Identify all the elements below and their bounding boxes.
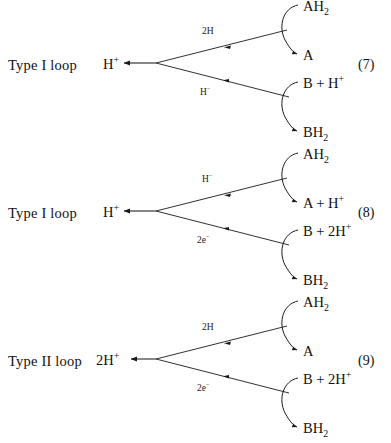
lower-branch-label-main-9: 2e: [197, 383, 206, 393]
lower-branch-label-sup-7: −: [207, 85, 211, 92]
left-species-8: H+: [103, 205, 119, 220]
upper-branch-label-sup-8: −: [209, 172, 213, 179]
proton-loop-figure: AH Type I loop: [0, 0, 391, 443]
lower-branch-label-sup-8: −: [206, 233, 210, 240]
left-species-main-8: H: [103, 204, 113, 220]
right-species-7-2: A: [303, 48, 313, 63]
left-species-main-9: 2H: [96, 352, 114, 368]
upper-branch-label-main-8: H: [202, 174, 209, 184]
lower-branch-label-8: 2e−: [197, 236, 210, 246]
lower-branch-label-9: 2e−: [197, 384, 210, 394]
upper-branch-label-main-7: 2H: [202, 26, 214, 36]
right-species-8-2: A + H+: [303, 196, 344, 211]
left-species-sup-8: +: [113, 202, 119, 213]
lower-branch-label-7: H−: [200, 88, 211, 98]
right-species-9-3: B + 2H+: [303, 372, 351, 387]
right-species-7-4: BH2: [303, 125, 328, 140]
left-species-main-7: H: [103, 56, 113, 72]
left-species-7: H+: [103, 57, 119, 72]
loop-type-label-7: Type I loop: [8, 58, 77, 73]
upper-branch-label-9: 2H: [202, 323, 214, 333]
left-species-sup-9: +: [114, 350, 120, 361]
left-species-9: 2H+: [96, 353, 119, 368]
lower-branch-label-main-8: 2e: [197, 235, 206, 245]
loop-diagram-7: AH Type I loop: [0, 0, 391, 144]
right-species-8-4: BH2: [303, 273, 328, 288]
right-species-7-3: B + H+: [303, 76, 344, 91]
left-species-sup-7: +: [113, 54, 119, 65]
equation-number-8: (8): [358, 206, 374, 220]
lower-branch-label-sup-9: −: [206, 381, 210, 388]
right-species-9-4: BH2: [303, 421, 328, 436]
upper-branch-label-7: 2H: [202, 27, 214, 37]
lower-branch-label-main-7: H: [200, 87, 207, 97]
equation-number-9: (9): [358, 354, 374, 368]
right-species-9-2: A: [303, 344, 313, 359]
right-species-9-1: AH2: [303, 295, 329, 310]
upper-branch-label-8: H−: [202, 175, 213, 185]
loop-type-label-8: Type I loop: [8, 206, 77, 221]
loop-diagram-8: Type I loop H+ H− 2e− AH2 A + H+ B + 2H+…: [0, 144, 391, 292]
right-species-8-3: B + 2H+: [303, 224, 351, 239]
equation-number-7: (7): [358, 58, 374, 72]
right-species-8-1: AH2: [303, 147, 329, 162]
loop-diagram-9: Type II loop 2H+ 2H 2e− AH2 A B + 2H+ BH…: [0, 292, 391, 440]
loop-type-label-9: Type II loop: [8, 354, 82, 369]
upper-branch-label-main-9: 2H: [202, 322, 214, 332]
right-species-7-1: AH2: [303, 0, 329, 14]
